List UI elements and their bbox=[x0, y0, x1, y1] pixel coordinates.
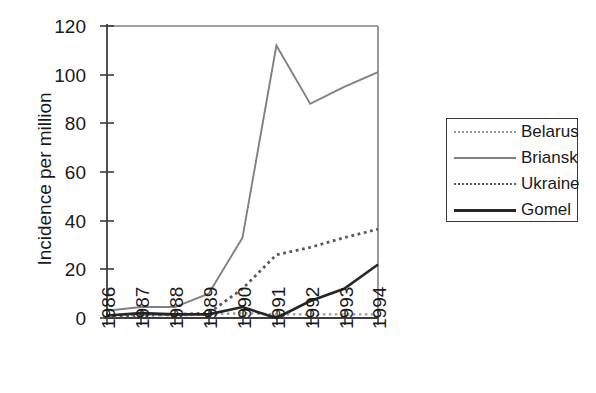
x-tick-label-1988: 1988 bbox=[167, 287, 186, 329]
x-tick-label-1990: 1990 bbox=[235, 287, 254, 329]
x-tick-label-1989: 1989 bbox=[201, 287, 220, 329]
legend-label-gomel: Gomel bbox=[521, 200, 571, 220]
chart-legend: Belarus Briansk Ukraine Gomel bbox=[446, 118, 578, 222]
ukraine-line-key bbox=[454, 177, 516, 191]
belarus-line-key bbox=[454, 125, 516, 139]
x-tick-label-1992: 1992 bbox=[303, 287, 322, 329]
chart-figure: Incidence per million 120 100 80 60 40 2… bbox=[0, 0, 596, 393]
x-tick-label-1986: 1986 bbox=[99, 287, 118, 329]
briansk-line-key bbox=[454, 151, 516, 165]
legend-item-gomel: Gomel bbox=[447, 197, 579, 223]
legend-label-ukraine: Ukraine bbox=[521, 174, 580, 194]
x-tick-label-1991: 1991 bbox=[269, 287, 288, 329]
legend-item-belarus: Belarus bbox=[447, 119, 579, 145]
x-tick-label-1994: 1994 bbox=[370, 287, 389, 329]
legend-label-belarus: Belarus bbox=[521, 122, 579, 142]
legend-item-briansk: Briansk bbox=[447, 145, 579, 171]
x-tick-label-1993: 1993 bbox=[337, 287, 356, 329]
series-line-briansk bbox=[107, 45, 378, 310]
legend-label-briansk: Briansk bbox=[521, 148, 578, 168]
gomel-line-key bbox=[454, 203, 516, 217]
legend-item-ukraine: Ukraine bbox=[447, 171, 579, 197]
x-tick-label-1987: 1987 bbox=[133, 287, 152, 329]
